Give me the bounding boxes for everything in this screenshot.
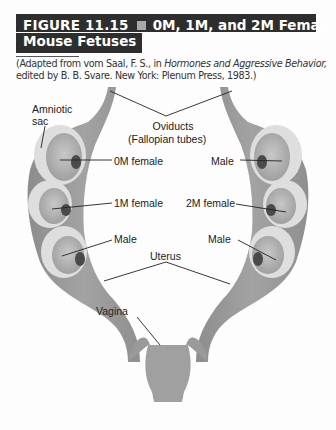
label-fallopian-tubes: (Fallopian tubes) bbox=[128, 133, 206, 145]
label-2m-female: 2M female bbox=[186, 197, 235, 209]
left-sac-bot bbox=[41, 226, 87, 278]
label-oviducts: Oviducts bbox=[138, 120, 208, 132]
left-sac-top bbox=[34, 125, 86, 185]
label-male-right-top: Male bbox=[211, 155, 234, 167]
right-sac-bot bbox=[249, 226, 295, 278]
label-amniotic-sac: Amniotic sac bbox=[32, 103, 72, 127]
label-uterus: Uterus bbox=[150, 250, 181, 262]
label-1m-female: 1M female bbox=[114, 197, 163, 209]
label-male-left: Male bbox=[114, 233, 137, 245]
label-male-right-bot: Male bbox=[208, 233, 231, 245]
right-sac-top bbox=[250, 125, 302, 185]
right-sac-mid bbox=[263, 180, 307, 228]
label-0m-female: 0M female bbox=[114, 155, 163, 167]
label-vagina: Vagina bbox=[96, 305, 128, 317]
uterus-diagram bbox=[0, 0, 336, 430]
left-sac-mid bbox=[28, 180, 72, 228]
